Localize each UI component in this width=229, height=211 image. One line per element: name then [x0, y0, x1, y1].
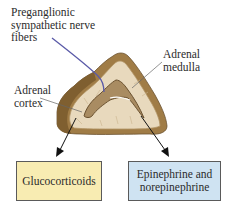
epinephrine-box: Epinephrine and norepinephrine [128, 161, 221, 201]
glucocorticoids-box: Glucocorticoids [16, 161, 102, 201]
adrenal-cortex-label: Adrenal cortex [14, 84, 51, 109]
cortex-arrow-head [56, 147, 64, 157]
medulla-arrow-head [161, 147, 169, 157]
adrenal-medulla-label: Adrenal medulla [163, 48, 200, 73]
nerve-fibers-label: Preganglionic sympathetic nerve fibers [11, 6, 95, 44]
